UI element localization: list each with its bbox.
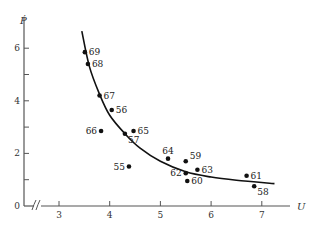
point-marker bbox=[166, 156, 171, 161]
fitted-curve-line bbox=[82, 31, 275, 184]
point-label: 58 bbox=[257, 187, 269, 197]
y-tick-label: 0 bbox=[14, 201, 20, 211]
point-label: 62 bbox=[170, 168, 181, 178]
point-label: 55 bbox=[114, 162, 126, 172]
y-tick-label: 2 bbox=[14, 148, 20, 158]
point-label: 57 bbox=[128, 135, 140, 145]
point-marker bbox=[99, 129, 104, 134]
fitted-curve bbox=[82, 31, 275, 184]
x-tick-label: 3 bbox=[56, 210, 62, 220]
point-label: 67 bbox=[104, 91, 116, 101]
point-label: 66 bbox=[86, 126, 98, 136]
point-marker bbox=[127, 164, 132, 169]
data-points: 696867566657655564596362606158 bbox=[83, 47, 269, 197]
phillips-curve-chart: 024634567 696867566657655564596362606158… bbox=[0, 0, 319, 228]
data-point: 55 bbox=[114, 162, 132, 172]
point-label: 63 bbox=[201, 165, 213, 175]
point-marker bbox=[195, 167, 200, 172]
point-marker bbox=[183, 159, 188, 164]
axis-break-icon bbox=[32, 200, 36, 210]
data-point: 67 bbox=[97, 91, 115, 101]
y-axis-title: Ṗ bbox=[19, 15, 27, 26]
x-tick-label: 5 bbox=[158, 210, 164, 220]
point-marker bbox=[97, 93, 102, 98]
point-label: 68 bbox=[92, 59, 104, 69]
point-marker bbox=[86, 62, 91, 67]
x-tick-label: 4 bbox=[107, 210, 113, 220]
point-label: 64 bbox=[162, 146, 174, 156]
axis-break-icon bbox=[36, 200, 40, 210]
data-point: 66 bbox=[86, 126, 104, 136]
x-tick-label: 6 bbox=[208, 210, 214, 220]
axes: 024634567 bbox=[14, 17, 290, 220]
y-tick-label: 4 bbox=[14, 96, 20, 106]
point-marker bbox=[83, 50, 88, 55]
x-axis-title: U bbox=[297, 201, 306, 212]
point-marker bbox=[244, 173, 249, 178]
point-label: 61 bbox=[251, 171, 262, 181]
data-point: 58 bbox=[252, 184, 269, 197]
point-marker bbox=[131, 129, 136, 134]
point-marker bbox=[185, 179, 190, 184]
point-marker bbox=[252, 184, 257, 189]
data-point: 63 bbox=[195, 165, 213, 175]
y-tick-label: 6 bbox=[14, 43, 20, 53]
data-point: 61 bbox=[244, 171, 262, 181]
point-label: 56 bbox=[116, 105, 128, 115]
point-marker bbox=[123, 131, 128, 136]
point-label: 69 bbox=[89, 47, 101, 57]
point-label: 65 bbox=[138, 126, 150, 136]
data-point: 60 bbox=[185, 176, 203, 186]
point-marker bbox=[183, 171, 188, 176]
point-marker bbox=[109, 108, 114, 113]
data-point: 56 bbox=[109, 105, 127, 115]
x-tick-label: 7 bbox=[259, 210, 265, 220]
data-point: 64 bbox=[162, 146, 174, 161]
point-label: 59 bbox=[190, 151, 202, 161]
data-point: 62 bbox=[170, 168, 188, 178]
point-label: 60 bbox=[191, 176, 203, 186]
data-point: 59 bbox=[183, 151, 201, 163]
